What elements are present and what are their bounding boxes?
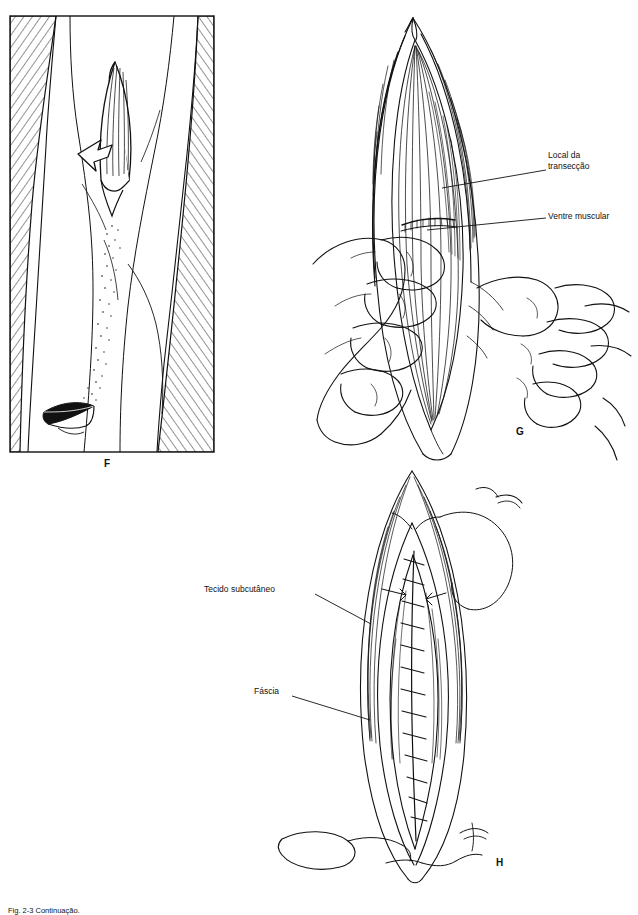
leader-line-local-da-transeccao [440, 168, 548, 190]
callout-fascia: Fáscia [254, 686, 279, 697]
figure-page: F [0, 0, 638, 915]
panel-h-illustration [260, 463, 590, 888]
panel-label-f: F [104, 458, 110, 469]
panel-g-drawing [255, 6, 638, 471]
leader-line-tecido-subcutaneo [313, 592, 373, 626]
panel-label-h: H [496, 857, 503, 868]
panel-g-illustration [255, 6, 638, 471]
panel-h-drawing [260, 463, 590, 888]
leader-line-fascia [290, 694, 372, 722]
panel-label-g: G [516, 426, 524, 437]
leader-line-ventre-muscular [425, 215, 548, 233]
panel-f-drawing [8, 14, 216, 454]
callout-tecido-subcutaneo: Tecido subcutâneo [204, 584, 275, 595]
callout-local-da-transeccao: Local da transecção [548, 150, 590, 171]
callout-ventre-muscular: Ventre muscular [548, 211, 609, 222]
figure-caption: Fig. 2-3 Continuação. [8, 906, 80, 915]
panel-f-illustration [8, 14, 216, 454]
